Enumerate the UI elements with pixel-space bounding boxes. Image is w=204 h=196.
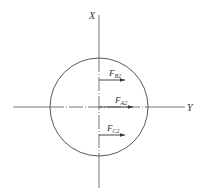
x-axis-label: X <box>88 10 96 21</box>
y-axis-label: Y <box>187 102 194 113</box>
force-diagram: X Y FB2 FA2 FC2 <box>0 0 204 196</box>
force-label-fa2: FA2 <box>114 95 127 106</box>
force-label-fb2: FB2 <box>108 68 121 79</box>
force-label-fc2: FC2 <box>106 123 120 134</box>
